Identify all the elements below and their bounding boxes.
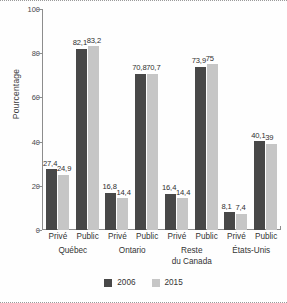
- bar-chart-figure: Pourcentage 020406080100 27,424,982,183,…: [0, 0, 287, 303]
- bar-value-label: 73,9: [192, 56, 206, 65]
- bar-2006-3[interactable]: [135, 74, 146, 230]
- bar-pair: 73,975: [195, 9, 219, 230]
- legend-swatch-icon: [104, 279, 112, 287]
- bar-pair: 70,870,7: [135, 9, 159, 230]
- bar-2006-7[interactable]: [254, 141, 265, 230]
- bar-value-label: 39: [265, 133, 273, 142]
- bar-value-label: 40,1: [251, 131, 265, 140]
- x-group-label-line: du Canada: [156, 256, 228, 267]
- bar-value-label: 70,8: [132, 63, 146, 72]
- bar-value-label: 24,9: [57, 164, 71, 173]
- bar-value-label: 83,2: [87, 36, 101, 45]
- legend-item[interactable]: 2006: [104, 278, 135, 287]
- bar-2006-6[interactable]: [224, 212, 235, 230]
- bar-2006-1[interactable]: [76, 49, 87, 230]
- y-axis-tick-labels: 020406080100: [16, 9, 40, 229]
- bar-value-label: 16,8: [102, 182, 116, 191]
- bar-value-label: 16,4: [162, 183, 176, 192]
- bar-value-label: 70,7: [146, 63, 160, 72]
- bar-pair: 16,414,4: [165, 9, 189, 230]
- bar-pair: 40,139: [254, 9, 278, 230]
- chart-legend: 20062015: [0, 278, 287, 287]
- bar-2015-3[interactable]: [147, 74, 158, 230]
- y-tick-mark: [37, 53, 42, 54]
- y-tick-mark: [37, 142, 42, 143]
- bar-2015-5[interactable]: [207, 64, 218, 230]
- y-tick-mark: [37, 97, 42, 98]
- bar-value-label: 7,4: [235, 203, 245, 212]
- bar-2015-4[interactable]: [177, 198, 188, 230]
- x-tick-label-sector: Public: [249, 232, 283, 241]
- bar-value-label: 82,1: [73, 38, 87, 47]
- bar-2006-5[interactable]: [195, 67, 206, 230]
- bar-2006-0[interactable]: [46, 169, 57, 230]
- x-axis-right-cap: [280, 226, 281, 230]
- bar-2006-4[interactable]: [165, 194, 176, 230]
- bar-2006-2[interactable]: [105, 193, 116, 230]
- y-tick-mark: [37, 186, 42, 187]
- legend-swatch-icon: [152, 279, 160, 287]
- legend-label: 2015: [165, 278, 183, 287]
- y-tick-mark: [37, 230, 42, 231]
- bar-value-label: 8,1: [221, 202, 231, 211]
- bar-2015-7[interactable]: [266, 144, 277, 230]
- bar-value-label: 27,4: [43, 159, 57, 168]
- y-axis-top-cap: [42, 9, 43, 13]
- x-group-label-line: États-Unis: [215, 245, 287, 256]
- bar-pair: 16,814,4: [105, 9, 129, 230]
- bar-2015-0[interactable]: [58, 175, 69, 230]
- bar-pair: 82,183,2: [76, 9, 100, 230]
- bar-pair: 8,17,4: [224, 9, 248, 230]
- bar-value-label: 14,4: [116, 188, 130, 197]
- bar-2015-1[interactable]: [88, 46, 99, 230]
- bar-pair: 27,424,9: [46, 9, 70, 230]
- bar-value-label: 75: [206, 54, 214, 63]
- legend-item[interactable]: 2015: [152, 278, 183, 287]
- plot-area: 27,424,982,183,216,814,470,870,716,414,4…: [43, 9, 281, 230]
- x-group-label: États-Unis: [215, 245, 287, 256]
- bar-value-label: 14,4: [176, 188, 190, 197]
- bar-2015-6[interactable]: [236, 214, 247, 230]
- x-axis-labels: PrivéPublicPrivéPublicPrivéPublicPrivéPu…: [43, 232, 281, 278]
- legend-label: 2006: [117, 278, 135, 287]
- bar-2015-2[interactable]: [117, 198, 128, 230]
